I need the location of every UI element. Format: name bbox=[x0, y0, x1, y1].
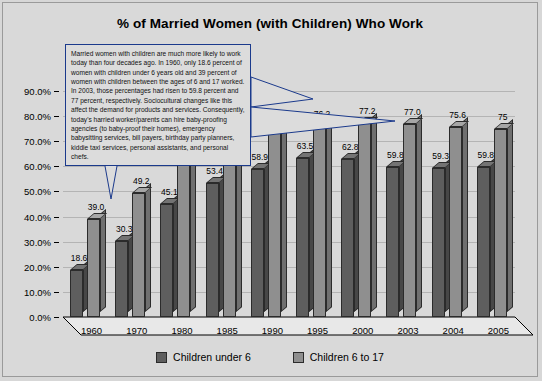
bar-side bbox=[145, 183, 151, 312]
x-tick-label: 1960 bbox=[81, 325, 102, 336]
bar-value-label: 30.3 bbox=[116, 224, 133, 234]
bar-value-label: 18.6 bbox=[71, 253, 88, 263]
bar-side bbox=[416, 114, 422, 312]
bar-face bbox=[449, 127, 462, 317]
bar-1985-series-0[interactable] bbox=[206, 183, 219, 317]
bar-face bbox=[386, 167, 399, 317]
bar-2004-series-1[interactable] bbox=[449, 127, 462, 317]
bar-value-label: 59.8 bbox=[478, 150, 495, 160]
bar-face bbox=[223, 146, 236, 317]
x-tick-label: 1990 bbox=[262, 325, 283, 336]
bar-value-label: 45.1 bbox=[161, 187, 178, 197]
bar-1970-series-1[interactable] bbox=[132, 193, 145, 317]
legend-item-children-under-6[interactable]: Children under 6 bbox=[156, 351, 251, 363]
bar-group: 59.877.0 bbox=[379, 91, 424, 317]
bar-1960-series-1[interactable] bbox=[87, 219, 100, 317]
bar-side bbox=[326, 116, 332, 312]
bar-value-label: 49.2 bbox=[133, 176, 150, 186]
bar-face bbox=[115, 241, 128, 317]
bar-1970-series-0[interactable] bbox=[115, 241, 128, 317]
bar-face bbox=[251, 169, 264, 317]
legend-swatch-icon bbox=[156, 352, 167, 363]
bar-face bbox=[132, 193, 145, 317]
bar-face bbox=[160, 204, 173, 317]
bar-value-label: 59.3 bbox=[432, 151, 449, 161]
bar-1985-series-1[interactable] bbox=[223, 146, 236, 317]
annotation-callout: Married women with children are much mor… bbox=[65, 44, 251, 166]
bar-face bbox=[477, 167, 490, 317]
bar-value-label: 63.5 bbox=[297, 141, 314, 151]
x-tick-label: 2000 bbox=[352, 325, 373, 336]
bar-value-label: 77.0 bbox=[404, 107, 421, 117]
x-tick-label: 1980 bbox=[171, 325, 192, 336]
chart-container: % of Married Women (with Children) Who W… bbox=[2, 2, 538, 377]
x-tick-label: 2003 bbox=[397, 325, 418, 336]
bar-side bbox=[281, 122, 287, 312]
legend-label: Children 6 to 17 bbox=[310, 351, 384, 363]
bar-face bbox=[432, 168, 445, 317]
bar-face bbox=[313, 126, 326, 317]
bar-value-label: 39.0 bbox=[88, 202, 105, 212]
bar-side bbox=[462, 117, 468, 312]
x-tick-label: 2004 bbox=[443, 325, 464, 336]
bar-face bbox=[403, 124, 416, 317]
bar-group: 63.576.2 bbox=[289, 91, 334, 317]
bar-1980-series-1[interactable] bbox=[177, 161, 190, 317]
bar-group: 59.375.6 bbox=[425, 91, 470, 317]
x-tick-label: 1985 bbox=[217, 325, 238, 336]
bar-1995-series-1[interactable] bbox=[313, 126, 326, 317]
bar-face bbox=[341, 159, 354, 317]
bar-value-label: 77.2 bbox=[359, 106, 376, 116]
bar-2005-series-0[interactable] bbox=[477, 167, 490, 317]
bar-face bbox=[296, 158, 309, 317]
bar-side bbox=[100, 209, 106, 312]
bar-face bbox=[494, 129, 507, 317]
bar-2000-series-1[interactable] bbox=[358, 123, 371, 317]
bar-face bbox=[206, 183, 219, 317]
bar-face bbox=[87, 219, 100, 317]
bar-value-label: 58.9 bbox=[252, 152, 269, 162]
bar-face bbox=[70, 270, 83, 317]
bar-value-label: 75.6 bbox=[449, 110, 466, 120]
bar-1995-series-0[interactable] bbox=[296, 158, 309, 317]
legend-item-children-6-to-17[interactable]: Children 6 to 17 bbox=[293, 351, 384, 363]
bar-value-label: 59.8 bbox=[387, 150, 404, 160]
bar-group: 59.875 bbox=[470, 91, 515, 317]
legend-swatch-icon bbox=[293, 352, 304, 363]
bar-1980-series-0[interactable] bbox=[160, 204, 173, 317]
bar-face bbox=[358, 123, 371, 317]
bar-side bbox=[190, 151, 196, 312]
bar-side bbox=[371, 113, 377, 312]
x-tick-label: 2005 bbox=[488, 325, 509, 336]
x-tick-label: 1995 bbox=[307, 325, 328, 336]
x-tick-label: 1970 bbox=[126, 325, 147, 336]
bar-value-label: 73.6 bbox=[269, 115, 286, 125]
bar-group: 62.877.2 bbox=[334, 91, 379, 317]
bar-1960-series-0[interactable] bbox=[70, 270, 83, 317]
bar-value-label: 53.4 bbox=[206, 166, 223, 176]
bar-1990-series-0[interactable] bbox=[251, 169, 264, 317]
bar-side bbox=[507, 119, 513, 312]
bar-2000-series-0[interactable] bbox=[341, 159, 354, 317]
bar-2005-series-1[interactable] bbox=[494, 129, 507, 317]
bar-1990-series-1[interactable] bbox=[268, 132, 281, 317]
bar-2003-series-0[interactable] bbox=[386, 167, 399, 317]
legend-label: Children under 6 bbox=[173, 351, 251, 363]
bar-2003-series-1[interactable] bbox=[403, 124, 416, 317]
bar-value-label: 62.8 bbox=[342, 142, 359, 152]
bar-face bbox=[268, 132, 281, 317]
bar-2004-series-0[interactable] bbox=[432, 168, 445, 317]
bar-value-label: 75 bbox=[498, 112, 507, 122]
bar-face bbox=[177, 161, 190, 317]
bar-value-label: 76.2 bbox=[314, 109, 331, 119]
chart-legend: Children under 6 Children 6 to 17 bbox=[3, 351, 537, 363]
